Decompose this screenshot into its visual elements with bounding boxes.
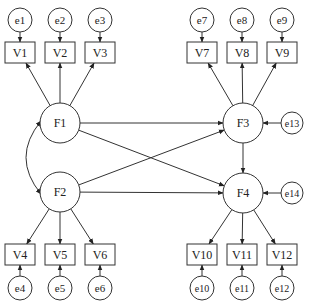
node-label: V8 — [235, 46, 250, 60]
node-label: V1 — [13, 46, 28, 60]
observed-variable-v8: V8 — [227, 42, 257, 63]
node-label: V9 — [275, 46, 290, 60]
observed-variable-v6: V6 — [85, 244, 115, 265]
node-label: V2 — [53, 46, 68, 60]
node-label: e13 — [285, 118, 299, 129]
error-term-e10: e10 — [190, 276, 214, 300]
covariance-f1-f2 — [26, 121, 41, 194]
arrow-f4-to-v11 — [242, 213, 243, 244]
node-label: e6 — [95, 282, 106, 294]
node-label: F2 — [54, 185, 67, 199]
arrow-f2-to-v4 — [27, 209, 49, 244]
node-label: e8 — [237, 14, 248, 26]
node-label: F3 — [237, 116, 250, 130]
error-term-e1: e1 — [8, 8, 32, 32]
error-term-e2: e2 — [48, 8, 72, 32]
node-label: V7 — [195, 46, 210, 60]
error-term-e9: e9 — [270, 8, 294, 32]
error-term-e11: e11 — [230, 276, 254, 300]
arrow-f3-to-v9 — [253, 63, 277, 105]
error-term-e5: e5 — [48, 276, 72, 300]
observed-variable-v7: V7 — [187, 42, 217, 63]
error-term-e6: e6 — [88, 276, 112, 300]
node-label: e4 — [15, 282, 26, 294]
error-term-e12: e12 — [270, 276, 294, 300]
latent-factor-f1: F1 — [40, 103, 80, 143]
arrow-f3-to-v7 — [208, 63, 233, 106]
node-label: e12 — [275, 283, 289, 294]
node-label: e1 — [15, 14, 25, 26]
observed-variable-v10: V10 — [187, 244, 217, 265]
node-label: e9 — [277, 14, 288, 26]
observed-variable-v5: V5 — [45, 244, 75, 265]
error-term-e13: e13 — [281, 112, 303, 134]
arrow-f4-to-v10 — [209, 210, 232, 244]
diagram-nodes: F1F2F3F4e1e2e3e4e5e6e7e8e9e10e11e12e13e1… — [5, 8, 303, 300]
observed-variable-v2: V2 — [45, 42, 75, 63]
observed-variable-v12: V12 — [267, 244, 297, 265]
arrow-f2-to-f4 — [80, 192, 223, 193]
node-label: e11 — [235, 283, 249, 294]
node-label: e5 — [55, 282, 66, 294]
node-label: e10 — [195, 283, 209, 294]
arrow-f1-to-v3 — [70, 63, 94, 106]
path-arrows — [20, 32, 282, 276]
node-label: V11 — [232, 248, 252, 262]
node-label: e2 — [55, 14, 65, 26]
latent-factor-f2: F2 — [40, 172, 80, 212]
node-label: V6 — [93, 248, 108, 262]
covariance-arrows — [26, 121, 41, 194]
observed-variable-v3: V3 — [85, 42, 115, 63]
error-term-e4: e4 — [8, 276, 32, 300]
node-label: V4 — [13, 248, 28, 262]
arrow-f1-to-v1 — [26, 63, 50, 106]
error-term-e8: e8 — [230, 8, 254, 32]
error-term-e3: e3 — [88, 8, 112, 32]
observed-variable-v9: V9 — [267, 42, 297, 63]
observed-variable-v4: V4 — [5, 244, 35, 265]
arrow-f3-to-v8 — [242, 63, 243, 103]
arrow-f4-to-v12 — [254, 210, 276, 244]
node-label: V12 — [272, 248, 293, 262]
arrow-f2-to-v6 — [71, 209, 93, 244]
sem-path-diagram: F1F2F3F4e1e2e3e4e5e6e7e8e9e10e11e12e13e1… — [0, 0, 310, 307]
observed-variable-v11: V11 — [227, 244, 257, 265]
node-label: e14 — [285, 188, 299, 199]
latent-factor-f4: F4 — [223, 173, 263, 213]
node-label: V5 — [53, 248, 68, 262]
observed-variable-v1: V1 — [5, 42, 35, 63]
node-label: e7 — [197, 14, 208, 26]
error-term-e7: e7 — [190, 8, 214, 32]
node-label: F1 — [54, 116, 67, 130]
node-label: V10 — [192, 248, 213, 262]
node-label: e3 — [95, 14, 106, 26]
node-label: F4 — [237, 186, 250, 200]
node-label: V3 — [93, 46, 108, 60]
latent-factor-f3: F3 — [223, 103, 263, 143]
error-term-e14: e14 — [281, 182, 303, 204]
